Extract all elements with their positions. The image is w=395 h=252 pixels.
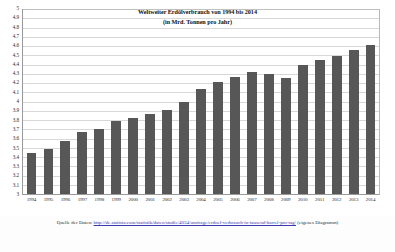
bar-series bbox=[23, 9, 379, 194]
bar bbox=[247, 72, 257, 194]
y-axis-tick-label: 4.5 bbox=[13, 53, 19, 58]
x-axis-tick-label: 2012 bbox=[328, 197, 345, 211]
bar-slot bbox=[57, 9, 74, 194]
bar-slot bbox=[345, 9, 362, 194]
y-axis-tick-label: 3.1 bbox=[13, 183, 19, 188]
bar bbox=[145, 114, 155, 194]
y-axis-tick-label: 3.3 bbox=[13, 164, 19, 169]
caption-note: (eigenes Diagramm) bbox=[297, 220, 338, 225]
bar bbox=[230, 77, 240, 194]
chart-figure: 54.94.84.74.64.54.44.34.24.143.93.83.73.… bbox=[0, 0, 395, 216]
bar bbox=[366, 45, 376, 194]
y-axis-tick-label: 4.8 bbox=[13, 25, 19, 30]
x-axis-tick-label: 1997 bbox=[74, 197, 91, 211]
bar bbox=[27, 153, 37, 194]
y-axis-tick-label: 5 bbox=[17, 6, 20, 11]
x-axis-tick-label: 1996 bbox=[57, 197, 74, 211]
x-axis-tick-label: 2009 bbox=[277, 197, 294, 211]
bar-slot bbox=[243, 9, 260, 194]
y-axis-tick-label: 3.2 bbox=[13, 174, 19, 179]
y-axis-tick-label: 4.1 bbox=[13, 90, 19, 95]
y-axis-tick-label: 4.9 bbox=[13, 16, 19, 21]
bar bbox=[281, 78, 291, 194]
y-axis-tick-label: 4 bbox=[17, 99, 20, 104]
x-axis-tick-label: 2002 bbox=[159, 197, 176, 211]
chart-page: 54.94.84.74.64.54.44.34.24.143.93.83.73.… bbox=[0, 0, 395, 252]
y-axis-tick-label: 3.8 bbox=[13, 118, 19, 123]
bar-slot bbox=[23, 9, 40, 194]
bar-slot bbox=[226, 9, 243, 194]
bar-slot bbox=[91, 9, 108, 194]
y-axis-tick-label: 3.7 bbox=[13, 127, 19, 132]
bar bbox=[213, 82, 223, 194]
bar bbox=[179, 102, 189, 195]
y-axis-tick-label: 3.9 bbox=[13, 109, 19, 114]
y-axis-tick-label: 4.4 bbox=[13, 62, 19, 67]
x-axis-tick-label: 2007 bbox=[243, 197, 260, 211]
x-axis-tick-label: 2011 bbox=[311, 197, 328, 211]
bar bbox=[196, 89, 206, 194]
bar-slot bbox=[125, 9, 142, 194]
y-axis: 54.94.84.74.64.54.44.34.24.143.93.83.73.… bbox=[0, 9, 21, 195]
x-axis-tick-label: 1995 bbox=[40, 197, 57, 211]
y-axis-tick-label: 4.6 bbox=[13, 44, 19, 49]
bar bbox=[264, 74, 274, 194]
bar-slot bbox=[40, 9, 57, 194]
x-axis-tick-label: 2006 bbox=[226, 197, 243, 211]
x-axis-tick-label: 2013 bbox=[345, 197, 362, 211]
bar bbox=[94, 129, 104, 194]
bar-slot bbox=[328, 9, 345, 194]
bar bbox=[349, 50, 359, 194]
x-axis-tick-label: 2001 bbox=[142, 197, 159, 211]
bar bbox=[298, 65, 308, 194]
bar-slot bbox=[277, 9, 294, 194]
bar bbox=[162, 110, 172, 194]
y-axis-tick-label: 3.5 bbox=[13, 146, 19, 151]
x-axis-tick-label: 2010 bbox=[294, 197, 311, 211]
x-axis-tick-label: 1998 bbox=[91, 197, 108, 211]
bar bbox=[111, 121, 121, 194]
x-axis-tick-label: 2005 bbox=[209, 197, 226, 211]
bar bbox=[128, 118, 138, 194]
x-axis-tick-label: 1994 bbox=[23, 197, 40, 211]
y-axis-tick-label: 3.4 bbox=[13, 155, 19, 160]
bar bbox=[332, 56, 342, 194]
bar bbox=[77, 132, 87, 194]
source-link[interactable]: http://de.statista.com/statistik/daten/s… bbox=[94, 220, 296, 225]
x-axis-tick-label: 1999 bbox=[108, 197, 125, 211]
bar-slot bbox=[142, 9, 159, 194]
bar-slot bbox=[209, 9, 226, 194]
y-axis-tick-label: 4.7 bbox=[13, 34, 19, 39]
bar-slot bbox=[108, 9, 125, 194]
y-axis-tick-label: 3.6 bbox=[13, 137, 19, 142]
x-axis-tick-label: 2000 bbox=[125, 197, 142, 211]
bar bbox=[44, 149, 54, 194]
x-axis-tick-label: 2008 bbox=[260, 197, 277, 211]
y-axis-tick-label: 3 bbox=[17, 192, 20, 197]
bar-slot bbox=[260, 9, 277, 194]
bar-slot bbox=[311, 9, 328, 194]
bar-slot bbox=[74, 9, 91, 194]
bar-slot bbox=[193, 9, 210, 194]
bar bbox=[315, 60, 325, 194]
x-axis-tick-label: 2003 bbox=[176, 197, 193, 211]
x-axis-tick-label: 2004 bbox=[193, 197, 210, 211]
bar-slot bbox=[294, 9, 311, 194]
caption-label: Quelle der Daten: bbox=[57, 220, 93, 225]
y-axis-tick-label: 4.2 bbox=[13, 81, 19, 86]
y-axis-tick-label: 4.3 bbox=[13, 71, 19, 76]
source-caption: Quelle der Daten: http://de.statista.com… bbox=[0, 219, 395, 228]
x-axis-tick-label: 2014 bbox=[362, 197, 379, 211]
bar-slot bbox=[362, 9, 379, 194]
bar-slot bbox=[159, 9, 176, 194]
bar bbox=[60, 141, 70, 194]
bar-slot bbox=[176, 9, 193, 194]
x-axis: 1994199519961997199819992000200120022003… bbox=[23, 197, 379, 211]
